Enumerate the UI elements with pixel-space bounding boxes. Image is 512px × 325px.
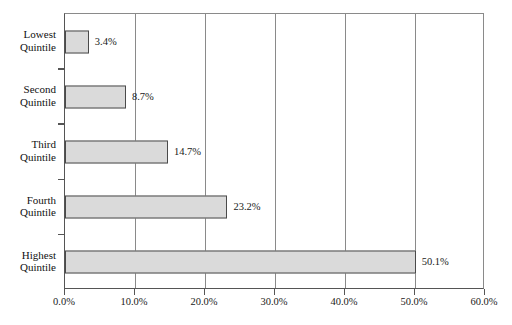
bar-value-label: 3.4%	[95, 36, 117, 47]
category-label-line: Third	[0, 138, 56, 151]
value-axis-tick	[274, 289, 275, 295]
category-label-line: Quintile	[0, 206, 56, 219]
category-tick	[58, 179, 65, 180]
bar-row: 8.7%	[65, 69, 483, 124]
value-axis-tick	[204, 289, 205, 295]
bar[interactable]	[65, 85, 126, 108]
bar-value-label: 14.7%	[174, 147, 201, 158]
category-label-line: Quintile	[0, 151, 56, 164]
category-label: LowestQuintile	[0, 28, 56, 53]
bar[interactable]	[65, 140, 168, 163]
bar-value-label: 8.7%	[132, 92, 154, 103]
bar-value-label: 23.2%	[233, 202, 260, 213]
value-axis-tick-label: 40.0%	[314, 297, 374, 308]
category-label-line: Lowest	[0, 28, 56, 41]
category-label: HighestQuintile	[0, 249, 56, 274]
category-label-line: Second	[0, 83, 56, 96]
category-label: FourthQuintile	[0, 194, 56, 219]
category-label: ThirdQuintile	[0, 138, 56, 163]
bar-row: 14.7%	[65, 124, 483, 179]
value-axis-tick	[134, 289, 135, 295]
category-label-line: Fourth	[0, 194, 56, 207]
value-axis-tick	[64, 289, 65, 295]
bar-chart: 3.4%8.7%14.7%23.2%50.1% LowestQuintileSe…	[0, 0, 512, 325]
value-axis-tick-label: 0.0%	[34, 297, 94, 308]
value-axis-tick-label: 10.0%	[104, 297, 164, 308]
value-axis-tick-label: 30.0%	[244, 297, 304, 308]
plot-area: 3.4%8.7%14.7%23.2%50.1%	[64, 13, 484, 289]
value-axis-tick-label: 50.0%	[384, 297, 444, 308]
value-axis-tick-label: 20.0%	[174, 297, 234, 308]
category-label: SecondQuintile	[0, 83, 56, 108]
bar[interactable]	[65, 196, 227, 219]
value-axis-tick-label: 60.0%	[454, 297, 512, 308]
value-axis-tick	[414, 289, 415, 295]
category-label-line: Quintile	[0, 96, 56, 109]
bar-row: 50.1%	[65, 235, 483, 290]
bar[interactable]	[65, 30, 89, 53]
bar-row: 3.4%	[65, 14, 483, 69]
category-tick	[58, 234, 65, 235]
category-label-line: Highest	[0, 249, 56, 262]
category-label-line: Quintile	[0, 41, 56, 54]
bar[interactable]	[65, 251, 416, 274]
bar-value-label: 50.1%	[422, 257, 449, 268]
category-tick	[58, 68, 65, 69]
category-tick	[58, 123, 65, 124]
value-axis-tick	[484, 289, 485, 295]
category-label-line: Quintile	[0, 261, 56, 274]
bar-row: 23.2%	[65, 180, 483, 235]
value-axis-tick	[344, 289, 345, 295]
